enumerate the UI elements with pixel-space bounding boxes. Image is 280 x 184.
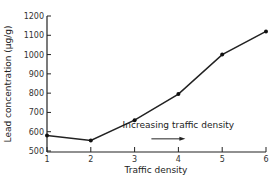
- x-tick-label: 3: [132, 155, 137, 164]
- y-tick-label: 600: [29, 128, 44, 137]
- y-axis-label: Lead concentration (µg/g): [3, 26, 13, 143]
- y-tick-label: 1100: [24, 31, 44, 40]
- y-tick-label: 800: [29, 89, 44, 98]
- data-point: [220, 53, 224, 57]
- x-tick-label: 6: [263, 155, 268, 164]
- x-tick-label: 4: [176, 155, 181, 164]
- x-tick-label: 1: [44, 155, 49, 164]
- x-tick-label: 5: [220, 155, 225, 164]
- data-point: [264, 29, 268, 33]
- y-tick-label: 700: [29, 108, 44, 117]
- y-tick-label: 500: [29, 147, 44, 156]
- data-point: [45, 134, 49, 138]
- arrow-right-icon: [179, 137, 185, 141]
- x-axis: 123456: [44, 147, 268, 164]
- annotation-text: Increasing traffic density: [123, 120, 235, 130]
- annotation: Increasing traffic density: [123, 120, 235, 141]
- line-chart: 500600700800900100011001200 123456 Incre…: [0, 0, 280, 184]
- y-tick-label: 1200: [24, 12, 44, 21]
- x-axis-label: Traffic density: [124, 165, 189, 175]
- data-point: [89, 138, 93, 142]
- x-tick-label: 2: [88, 155, 93, 164]
- y-tick-label: 900: [29, 70, 44, 79]
- y-tick-label: 1000: [24, 51, 44, 60]
- data-point: [176, 92, 180, 96]
